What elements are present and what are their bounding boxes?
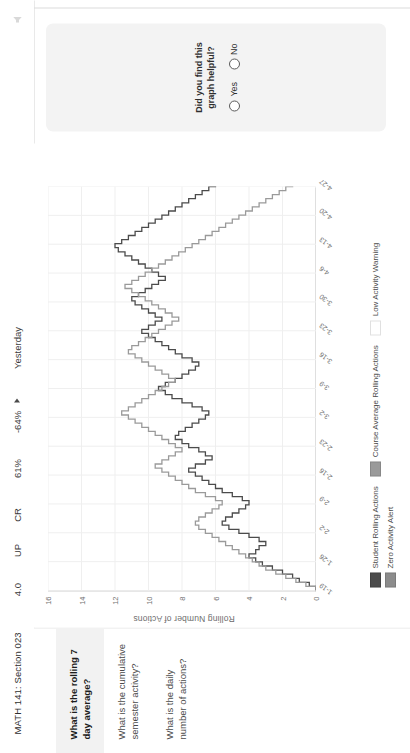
- x-axis-ticks: 1-191-262-22-92-162-233-23-93-163-233-30…: [318, 187, 378, 591]
- legend-label: Low Activity Warning: [371, 242, 380, 316]
- legend-label: Student Rolling Actions: [371, 486, 380, 568]
- legend-item[interactable]: Low Activity Warning: [370, 242, 381, 335]
- feedback-card: Did you find this graph helpful? Yes No: [46, 23, 386, 131]
- legend-swatch: [370, 320, 381, 335]
- y-tick-label: 4: [245, 596, 254, 600]
- course-title: MATH 141: Section 023: [12, 632, 23, 734]
- y-tick-label: 12: [111, 596, 120, 604]
- y-tick-label: 10: [144, 596, 153, 604]
- legend-swatch: [370, 461, 381, 476]
- y-tick-label: 14: [77, 596, 86, 604]
- trend-value: UP: [12, 543, 23, 556]
- plot-area: [48, 187, 316, 591]
- x-tick-label: 3-2: [318, 408, 330, 420]
- rotated-screenshot-wrapper: chevron-down-icon MATH 141: Section 023 …: [0, 0, 410, 753]
- x-tick-label: 1-19: [318, 581, 333, 595]
- legend-swatch: [385, 572, 396, 587]
- feedback-option-label: Yes: [229, 81, 239, 96]
- y-tick-label: 8: [178, 596, 187, 600]
- speaker-icon[interactable]: [12, 10, 23, 23]
- legend-item[interactable]: Zero Activity Alert: [385, 506, 396, 587]
- question-label: What is the rolling 7 day average?: [68, 649, 92, 739]
- legend-label: Course Average Rolling Actions: [371, 345, 380, 457]
- x-tick-label: 3-9: [318, 379, 330, 391]
- percent-secondary: -64%: [12, 410, 23, 432]
- x-tick-label: 3-23: [318, 322, 333, 336]
- x-tick-label: 3-30: [318, 293, 333, 307]
- x-tick-label: 4-6: [318, 264, 330, 276]
- legend-item[interactable]: Course Average Rolling Actions: [370, 345, 381, 476]
- legend-item[interactable]: Student Rolling Actions: [370, 486, 381, 587]
- dashboard-root: chevron-down-icon MATH 141: Section 023 …: [0, 0, 410, 753]
- radio-icon[interactable]: [229, 100, 240, 111]
- x-tick-label: 2-9: [318, 495, 330, 507]
- x-tick-label: 3-16: [318, 351, 333, 365]
- question-item-2[interactable]: What is the daily number of actions?: [152, 628, 200, 753]
- y-tick-label: 16: [44, 596, 53, 604]
- y-tick-label: 6: [211, 596, 220, 600]
- triangle-right-icon[interactable]: [14, 398, 20, 402]
- question-label: What is the daily number of actions?: [164, 658, 188, 739]
- x-tick-label: 4-27: [318, 177, 333, 191]
- x-tick-label: 2-16: [318, 466, 333, 480]
- chart-svg: [48, 186, 316, 590]
- x-tick-label: 4-13: [318, 235, 333, 249]
- course-header-bar: chevron-down-icon MATH 141: Section 023 …: [0, 0, 34, 753]
- question-item-0[interactable]: What is the rolling 7 day average?: [56, 628, 104, 753]
- feedback-options: Yes No: [229, 43, 240, 111]
- y-tick-label: 2: [278, 596, 287, 600]
- feedback-option-no[interactable]: No: [229, 43, 240, 70]
- x-tick-label: 1-26: [318, 553, 333, 567]
- chart-card: Rolling Number of Actions 1614121086420 …: [34, 143, 410, 627]
- feedback-option-yes[interactable]: Yes: [229, 81, 240, 111]
- question-item-1[interactable]: What is the cumulative semester activity…: [104, 628, 152, 753]
- question-list-panel: What is the rolling 7 day average? What …: [34, 627, 410, 753]
- last-activity-label: Yesterday: [12, 326, 23, 368]
- y-axis-ticks: 1614121086420: [48, 593, 316, 619]
- right-divider: [34, 7, 410, 8]
- x-tick-label: 2-23: [318, 437, 333, 451]
- x-tick-label: 4-20: [318, 206, 333, 220]
- radio-icon[interactable]: [229, 58, 240, 69]
- feedback-option-label: No: [229, 43, 239, 55]
- grade-value: CR: [12, 508, 23, 522]
- question-label: What is the cumulative semester activity…: [116, 643, 140, 739]
- percent-primary: 61%: [12, 459, 23, 478]
- gpa-value: 4.0: [12, 583, 23, 596]
- legend-swatch: [370, 572, 381, 587]
- y-tick-label: 0: [312, 596, 321, 600]
- legend-label: Zero Activity Alert: [386, 506, 395, 568]
- x-tick-label: 2-2: [318, 524, 330, 536]
- feedback-question: Did you find this graph helpful?: [193, 31, 217, 123]
- chart-legend: Student Rolling ActionsCourse Average Ro…: [370, 167, 396, 587]
